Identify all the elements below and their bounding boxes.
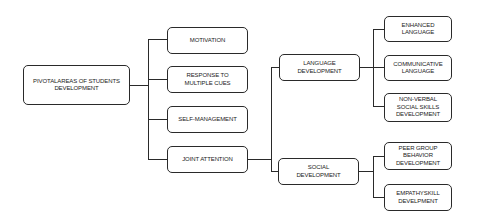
node-label: JOINT ATTENTION xyxy=(182,156,233,164)
connector xyxy=(148,79,167,80)
connector xyxy=(130,85,149,86)
node-social-development: SOCIAL DEVELOPMENT xyxy=(278,158,359,185)
connector xyxy=(373,156,374,198)
connector xyxy=(271,67,279,68)
node-label: RESPONSE TO MULTIPLE CUES xyxy=(180,72,235,87)
root-label: PIVOTALAREAS OF STUDENTS DEVELOPMENT xyxy=(32,78,122,93)
node-communicative-language: COMMUNICATIVE LANGUAGE xyxy=(384,55,452,81)
root-node: PIVOTALAREAS OF STUDENTS DEVELOPMENT xyxy=(23,65,130,105)
node-label: LANGUAGE DEVELOPMENT xyxy=(292,60,347,75)
node-label: EMPATHYSKILL DEVELPMENT xyxy=(393,190,443,205)
node-label: MOTIVATION xyxy=(190,37,225,45)
connector xyxy=(373,106,384,107)
connector xyxy=(359,171,374,172)
connector xyxy=(373,156,384,157)
connector xyxy=(148,159,167,160)
node-language-development: LANGUAGE DEVELOPMENT xyxy=(279,54,360,81)
node-label: SOCIAL DEVELOPMENT xyxy=(291,164,346,179)
node-label: ENHANCED LANGUAGE xyxy=(396,22,441,37)
node-non-verbal-social-skills: NON-VERBAL SOCIAL SKILLS DEVELOPMENT xyxy=(384,93,452,122)
node-peer-group-behavior: PEER GROUP BEHAVIOR DEVELOPMENT xyxy=(384,142,452,170)
connector xyxy=(148,119,167,120)
connector xyxy=(360,67,374,68)
node-label: NON-VERBAL SOCIAL SKILLS DEVELOPMENT xyxy=(392,96,444,119)
connector xyxy=(373,197,384,198)
connector xyxy=(373,67,384,68)
connector xyxy=(248,159,272,160)
connector xyxy=(271,67,272,172)
node-empathy-skill: EMPATHYSKILL DEVELPMENT xyxy=(384,184,452,211)
node-label: SELF-MANAGEMENT xyxy=(178,116,237,124)
node-response-to-multiple-cues: RESPONSE TO MULTIPLE CUES xyxy=(167,66,248,93)
connector xyxy=(148,39,167,40)
node-motivation: MOTIVATION xyxy=(167,27,248,54)
connector xyxy=(148,39,149,159)
node-self-management: SELF-MANAGEMENT xyxy=(167,106,248,133)
node-joint-attention: JOINT ATTENTION xyxy=(167,146,248,173)
node-label: PEER GROUP BEHAVIOR DEVELOPMENT xyxy=(392,145,444,168)
connector xyxy=(373,29,384,30)
node-label: COMMUNICATIVE LANGUAGE xyxy=(391,61,446,76)
node-enhanced-language: ENHANCED LANGUAGE xyxy=(384,16,452,42)
